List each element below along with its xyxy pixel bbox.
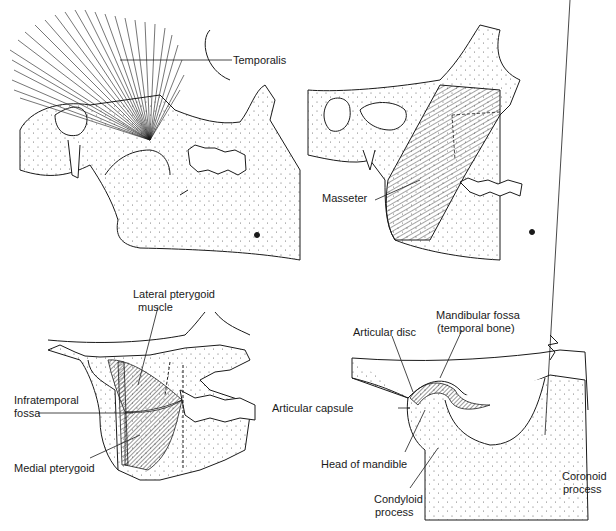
label-temporalis: Temporalis bbox=[233, 54, 286, 67]
label-condyloid-2: process bbox=[375, 506, 414, 519]
label-infratemporal-2: fossa bbox=[14, 407, 40, 420]
label-lateral-pterygoid-2: muscle bbox=[138, 301, 173, 314]
label-masseter: Masseter bbox=[322, 192, 367, 205]
label-articular-capsule: Articular capsule bbox=[272, 402, 353, 415]
label-head-of-mandible: Head of mandible bbox=[321, 458, 407, 471]
anatomy-illustration bbox=[0, 0, 616, 531]
label-mandibular-fossa-2: (temporal bone) bbox=[437, 322, 515, 335]
label-infratemporal-1: Infratemporal bbox=[14, 394, 79, 407]
label-mandibular-fossa-1: Mandibular fossa bbox=[436, 309, 520, 322]
label-coronoid-1: Coronoid bbox=[562, 470, 607, 483]
label-coronoid-2: process bbox=[563, 483, 602, 496]
label-lateral-pterygoid-1: Lateral pterygoid bbox=[133, 288, 215, 301]
label-articular-disc: Articular disc bbox=[353, 326, 416, 339]
label-medial-pterygoid: Medial pterygoid bbox=[14, 462, 95, 475]
label-condyloid-1: Condyloid bbox=[374, 493, 423, 506]
